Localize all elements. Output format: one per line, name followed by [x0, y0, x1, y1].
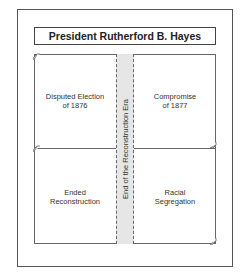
quadrant-text-line: of 1877: [154, 101, 197, 110]
page-fold-icon: [33, 145, 41, 153]
quadrant-text-line: Segregation: [155, 197, 195, 206]
quadrant-top-right: Compromise of 1877: [134, 54, 216, 148]
four-square-grid: Disputed Election of 1876 Compromise of …: [34, 54, 216, 244]
quadrant-text-line: Disputed Election: [46, 92, 104, 101]
quadrant-text-line: Reconstruction: [50, 197, 100, 206]
quadrant-top-left: Disputed Election of 1876: [34, 54, 116, 148]
center-band: End of the Reconstruction Era: [116, 54, 134, 244]
diagram-title: President Rutherford B. Hayes: [49, 30, 201, 42]
center-band-label: End of the Reconstruction Era: [121, 99, 130, 199]
quadrant-text-line: Ended: [50, 188, 100, 197]
page-fold-icon: [209, 141, 217, 149]
quadrant-bottom-left: Ended Reconstruction: [34, 149, 116, 244]
quadrant-text-line: Compromise: [154, 92, 197, 101]
quadrant-text-line: Racial: [155, 188, 195, 197]
title-box: President Rutherford B. Hayes: [34, 27, 216, 45]
page-fold-icon: [33, 53, 41, 61]
quadrant-bottom-right: Racial Segregation: [134, 149, 216, 244]
quadrant-text-line: of 1876: [46, 101, 104, 110]
page-fold-icon: [209, 237, 217, 245]
